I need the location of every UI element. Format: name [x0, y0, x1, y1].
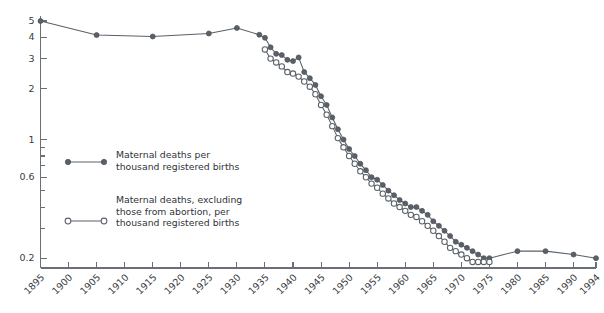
data-point-1: [447, 245, 452, 250]
data-point-1: [324, 112, 329, 117]
chart-plot-area: 543210.60.218951900190519101915192019251…: [0, 0, 604, 313]
data-point-1: [408, 212, 413, 217]
legend-label-1: those from abortion, per: [116, 206, 230, 217]
data-point-0: [285, 57, 290, 62]
data-point-0: [369, 175, 374, 180]
data-point-0: [341, 137, 346, 142]
data-point-1: [459, 252, 464, 257]
data-point-0: [515, 249, 520, 254]
x-tick-label: 1925: [190, 272, 215, 297]
data-point-1: [352, 161, 357, 166]
data-point-0: [319, 94, 324, 99]
data-point-0: [448, 234, 453, 239]
data-point-1: [431, 228, 436, 233]
x-tick-label: 1935: [246, 272, 271, 297]
data-point-0: [543, 249, 548, 254]
data-point-0: [425, 212, 430, 217]
data-point-1: [335, 135, 340, 140]
data-point-1: [453, 248, 458, 253]
x-tick-label: 1940: [274, 272, 299, 297]
data-point-0: [347, 146, 352, 151]
data-point-0: [363, 168, 368, 173]
data-point-0: [420, 208, 425, 213]
data-point-1: [279, 64, 284, 69]
data-point-1: [285, 69, 290, 74]
legend-marker-1: [101, 218, 107, 224]
data-point-0: [234, 25, 239, 30]
legend-marker-1: [65, 218, 71, 224]
data-point-1: [318, 102, 323, 107]
data-point-1: [380, 191, 385, 196]
x-tick-label: 1920: [162, 272, 187, 297]
data-point-1: [464, 255, 469, 260]
data-point-0: [358, 161, 363, 166]
y-tick-label: 5: [28, 15, 34, 26]
data-point-0: [436, 223, 441, 228]
data-point-1: [302, 79, 307, 84]
data-point-0: [206, 31, 211, 36]
data-point-0: [302, 70, 307, 75]
data-point-0: [279, 53, 284, 58]
data-point-1: [470, 259, 475, 264]
legend-marker-0: [101, 159, 106, 164]
data-point-1: [290, 71, 295, 76]
series-line-1: [265, 49, 489, 262]
data-point-1: [341, 145, 346, 150]
y-tick-label: 3: [28, 53, 34, 64]
data-point-0: [330, 115, 335, 120]
maternal-deaths-chart: 543210.60.218951900190519101915192019251…: [0, 0, 604, 313]
data-point-0: [262, 35, 267, 40]
data-point-1: [374, 185, 379, 190]
data-point-0: [324, 102, 329, 107]
x-tick-label: 1980: [498, 272, 523, 297]
data-point-1: [414, 214, 419, 219]
data-point-0: [313, 82, 318, 87]
x-tick-label: 1994: [577, 272, 602, 297]
data-point-0: [352, 154, 357, 159]
data-point-0: [38, 18, 43, 23]
x-tick-label: 1915: [134, 272, 159, 297]
data-point-1: [268, 56, 273, 61]
data-point-0: [414, 205, 419, 210]
legend-label-0: Maternal deaths per: [116, 149, 210, 160]
data-point-0: [94, 33, 99, 38]
data-point-1: [369, 181, 374, 186]
data-point-1: [475, 259, 480, 264]
x-tick-label: 1985: [527, 272, 552, 297]
y-tick-label: 0.2: [19, 252, 34, 263]
data-point-1: [397, 204, 402, 209]
data-point-1: [436, 233, 441, 238]
data-point-0: [442, 228, 447, 233]
data-point-0: [380, 182, 385, 187]
data-point-0: [403, 201, 408, 206]
data-point-0: [464, 245, 469, 250]
data-point-1: [442, 239, 447, 244]
data-point-0: [274, 51, 279, 56]
data-point-0: [291, 59, 296, 64]
x-tick-label: 1970: [442, 272, 467, 297]
legend-label-1: thousand registered births: [116, 217, 239, 228]
data-point-1: [358, 169, 363, 174]
data-point-0: [392, 193, 397, 198]
data-point-0: [150, 34, 155, 39]
data-point-1: [419, 219, 424, 224]
x-tick-label: 1955: [358, 272, 383, 297]
data-point-0: [571, 252, 576, 257]
legend-label-1: Maternal deaths, excluding: [116, 194, 242, 205]
x-tick-label: 1895: [22, 272, 47, 297]
x-tick-label: 1965: [414, 272, 439, 297]
x-tick-label: 1905: [78, 272, 103, 297]
data-point-0: [268, 45, 273, 50]
data-point-0: [296, 55, 301, 60]
data-point-1: [346, 153, 351, 158]
data-point-1: [363, 175, 368, 180]
legend-label-0: thousand registered births: [116, 161, 239, 172]
data-point-0: [459, 242, 464, 247]
x-tick-label: 1975: [470, 272, 495, 297]
x-tick-label: 1930: [218, 272, 243, 297]
y-tick-label: 1: [28, 134, 34, 145]
data-point-1: [296, 74, 301, 79]
data-point-1: [262, 47, 267, 52]
data-point-0: [307, 76, 312, 81]
data-point-0: [476, 252, 481, 257]
